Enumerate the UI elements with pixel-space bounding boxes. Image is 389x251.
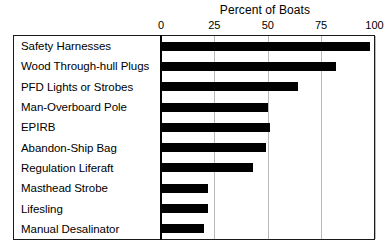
- category-label: Man-Overboard Pole: [14, 101, 127, 113]
- category-label: Lifesling: [14, 203, 63, 215]
- category-label: Manual Desalinator: [14, 223, 119, 235]
- bar: [161, 143, 266, 152]
- x-tick-label-100: 100: [365, 19, 383, 31]
- chart-figure: Percent of Boats 0255075100 Safety Harne…: [0, 0, 389, 251]
- category-label: Regulation Liferaft: [14, 162, 113, 174]
- bar: [161, 82, 298, 91]
- bar: [161, 163, 253, 172]
- bar-row: [161, 56, 336, 76]
- category-label: Wood Through-hull Plugs: [14, 60, 149, 72]
- category-row: PFD Lights or Strobes: [14, 77, 161, 97]
- x-tick-label-0: 0: [158, 19, 164, 31]
- x-tick-label-25: 25: [208, 19, 220, 31]
- category-row: Wood Through-hull Plugs: [14, 56, 161, 76]
- category-row: Man-Overboard Pole: [14, 97, 161, 117]
- category-label: Masthead Strobe: [14, 182, 108, 194]
- bar: [161, 62, 336, 71]
- chart-title: Percent of Boats: [180, 3, 350, 17]
- bar-row: [161, 178, 208, 198]
- category-row: Masthead Strobe: [14, 178, 161, 198]
- x-axis-tick-labels: 0255075100: [0, 19, 389, 33]
- x-tick-label-75: 75: [315, 19, 327, 31]
- plot-area: [161, 36, 374, 239]
- category-row: Abandon-Ship Bag: [14, 138, 161, 158]
- bar-row: [161, 77, 298, 97]
- bar: [161, 103, 268, 112]
- category-row: Lifesling: [14, 198, 161, 218]
- bar: [161, 184, 208, 193]
- bar-row: [161, 158, 253, 178]
- category-label: PFD Lights or Strobes: [14, 81, 133, 93]
- category-row: Manual Desalinator: [14, 219, 161, 239]
- category-row: Regulation Liferaft: [14, 158, 161, 178]
- bar-row: [161, 117, 270, 137]
- category-label-column: Safety HarnessesWood Through-hull PlugsP…: [14, 36, 161, 239]
- x-tick-label-50: 50: [262, 19, 274, 31]
- bar-row: [161, 198, 208, 218]
- category-row: Safety Harnesses: [14, 36, 161, 56]
- category-label: Abandon-Ship Bag: [14, 142, 117, 154]
- bar: [161, 123, 270, 132]
- gridline-100: [375, 36, 376, 239]
- bar: [161, 42, 370, 51]
- category-row: EPIRB: [14, 117, 161, 137]
- bar: [161, 204, 208, 213]
- bar-row: [161, 219, 204, 239]
- bar: [161, 224, 204, 233]
- bar-row: [161, 97, 268, 117]
- category-label: EPIRB: [14, 121, 55, 133]
- category-label: Safety Harnesses: [14, 40, 111, 52]
- bar-row: [161, 36, 370, 56]
- bar-row: [161, 138, 266, 158]
